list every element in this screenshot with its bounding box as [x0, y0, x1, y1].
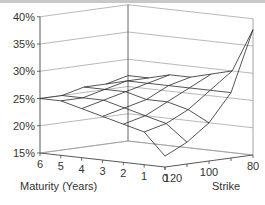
surface-line-maturity — [84, 87, 105, 89]
surface-line-strike — [231, 30, 253, 93]
gridline-left-wall — [40, 5, 128, 17]
z-tick-label: 35% — [13, 38, 35, 50]
surface-line-strike — [126, 83, 148, 91]
surface-line-strike — [144, 124, 166, 132]
maturity-axis-title: Maturity (Years) — [20, 180, 97, 192]
strike-axis-title: Strike — [212, 180, 240, 192]
maturity-tick-label: 1 — [141, 170, 147, 182]
surface-line-maturity — [127, 81, 148, 83]
surface-line-strike — [188, 90, 210, 109]
surface-line-maturity — [169, 86, 190, 88]
chart-walls — [37, 5, 253, 170]
surface-line-maturity — [82, 109, 103, 117]
z-tick-label: 15% — [13, 147, 35, 159]
maturity-tick-label: 6 — [37, 158, 43, 170]
surface-line-strike — [40, 96, 62, 99]
surface-line-strike — [147, 86, 169, 100]
maturity-tick-label: 3 — [99, 165, 105, 177]
surface-line-strike — [165, 142, 187, 156]
strike-tick-label: 80 — [247, 160, 259, 172]
surface-line-maturity — [61, 101, 82, 109]
maturity-tick-label: 2 — [120, 167, 126, 179]
surface-line-strike — [187, 123, 209, 142]
maturity-tick-label: 5 — [58, 160, 64, 172]
surface-line-maturity — [126, 92, 147, 100]
strike-tick-label: 100 — [200, 166, 218, 178]
surface-line-strike — [166, 110, 188, 124]
surface-line-strike — [103, 108, 125, 116]
surface-line-maturity — [147, 100, 168, 102]
z-tick-label: 30% — [13, 65, 35, 77]
surface-line-strike — [83, 89, 105, 97]
z-axis-labels: 40%35%30%25%20%15% — [13, 11, 35, 159]
surface-line-strike — [189, 74, 211, 88]
surface-line-maturity — [232, 30, 253, 71]
surface-line-maturity — [167, 102, 188, 110]
surface-line-strike — [61, 98, 83, 101]
floor-back-edge — [128, 141, 253, 155]
surface-line-maturity — [166, 124, 187, 143]
surface-mesh — [40, 30, 253, 156]
surface-line-strike — [145, 102, 167, 116]
floor-left-edge — [40, 141, 128, 153]
surface-line-maturity — [170, 75, 191, 77]
surface-line-strike — [123, 116, 145, 124]
gridline-back-wall — [128, 87, 253, 101]
surface-line-maturity — [104, 100, 125, 108]
surface-line-maturity — [83, 98, 104, 100]
surface-line-maturity — [103, 116, 124, 124]
surface-line-strike — [127, 78, 149, 81]
surface-line-strike — [167, 88, 189, 102]
surface-line-maturity — [62, 96, 83, 98]
surface-line-strike — [82, 100, 104, 108]
gridline-left-wall — [40, 32, 128, 44]
surface-line-maturity — [189, 88, 210, 90]
surface-line-maturity — [128, 76, 149, 78]
surface-line-strike — [84, 84, 106, 87]
gridline-back-wall — [128, 5, 253, 19]
surface-line-maturity — [40, 99, 61, 101]
strike-tick-label: 120 — [164, 172, 182, 184]
surface-line-strike — [169, 77, 191, 85]
gridline-left-wall — [40, 59, 128, 71]
z-tick-label: 20% — [13, 120, 35, 132]
gridline-left-wall — [40, 114, 128, 126]
z-tick-label: 40% — [13, 11, 35, 23]
surface-line-maturity — [148, 83, 169, 85]
surface-line-maturity — [123, 124, 144, 132]
surface-line-maturity — [144, 132, 165, 156]
z-tick-label: 25% — [13, 93, 35, 105]
gridline-back-wall — [128, 32, 253, 46]
surface-line-maturity — [105, 89, 126, 91]
volatility-surface-chart: 40%35%30%25%20%15% 6543210 12010080 Matu… — [0, 0, 265, 205]
surface-line-maturity — [210, 90, 231, 92]
surface-line-strike — [104, 92, 126, 100]
maturity-tick-label: 4 — [79, 163, 85, 175]
